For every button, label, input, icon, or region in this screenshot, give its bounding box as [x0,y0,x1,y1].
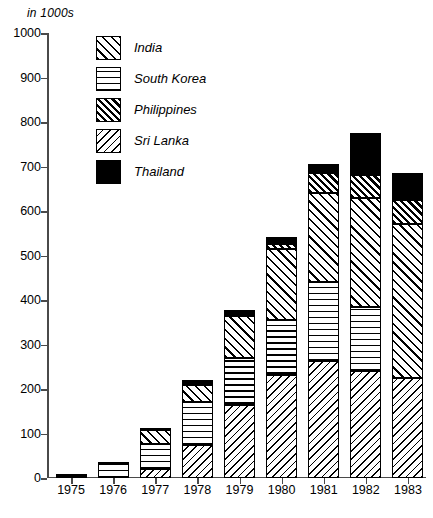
bar-1978 [182,380,213,478]
bar-segment-1979-south-korea [224,358,255,405]
y-tick-mark-800 [41,122,47,124]
y-tick-mark-700 [41,167,47,169]
bar-segment-1981-sri-lanka [308,361,339,478]
bar-1977 [140,430,171,478]
bar-segment-1976-south-korea [98,464,129,478]
legend-swatch-south-korea-icon [96,67,121,91]
bar-segment-1978-south-korea [182,402,213,444]
y-tick-mark-200 [41,389,47,391]
x-tick-label-1977: 1977 [141,483,169,497]
y-tick-mark-500 [41,256,47,258]
y-tick-label-200: 200 [20,382,41,396]
stacked-bar-chart: in 1000s 0100200300400500600700800900100… [0,0,433,518]
x-tick-label-1980: 1980 [268,483,296,497]
bar-segment-1979-sri-lanka [224,405,255,478]
bar-segment-1982-thailand [350,133,381,175]
bar-segment-1982-india [350,198,381,307]
bar-1976 [98,462,129,478]
bar-1981 [308,164,339,478]
bar-segment-1976-thailand [98,462,129,464]
bar-segment-1982-sri-lanka [350,371,381,478]
bar-segment-1979-india [224,316,255,358]
legend-item-south-korea: South Korea [96,65,206,92]
x-tick-label-1981: 1981 [310,483,338,497]
bar-1979 [224,310,255,478]
y-tick-label-600: 600 [20,204,41,218]
legend-swatch-philippines-icon [96,98,121,122]
x-tick-label-1982: 1982 [352,483,380,497]
legend-swatch-india-icon [96,36,121,60]
x-tick-label-1983: 1983 [394,483,422,497]
bar-segment-1980-india [266,249,297,320]
y-tick-label-500: 500 [20,249,41,263]
bar-segment-1977-south-korea [140,444,171,469]
x-tick-label-1975: 1975 [57,483,85,497]
legend-item-india: India [96,34,206,61]
bar-segment-1983-india [392,224,423,378]
legend-label: Philippines [134,102,197,117]
y-tick-mark-300 [41,345,47,347]
y-tick-mark-400 [41,300,47,302]
y-tick-label-100: 100 [20,427,41,441]
bar-segment-1977-thailand [140,428,171,430]
legend-swatch-thailand-icon [96,160,121,184]
bar-segment-1977-sri-lanka [140,469,171,478]
bar-segment-1980-thailand [266,237,297,244]
y-tick-label-700: 700 [20,160,41,174]
bar-1983 [392,173,423,478]
legend-label: India [134,40,162,55]
y-tick-label-0: 0 [34,471,41,485]
bar-segment-1978-sri-lanka [182,445,213,478]
legend-label: Thailand [134,164,184,179]
legend-item-philippines: Philippines [96,96,206,123]
bar-segment-1981-philippines [308,173,339,193]
bar-segment-1981-south-korea [308,282,339,361]
bar-segment-1982-south-korea [350,307,381,372]
bar-segment-1978-thailand [182,380,213,384]
bar-segment-1980-philippines [266,244,297,249]
chart-legend: IndiaSouth KoreaPhilippinesSri LankaThai… [96,34,206,189]
bar-1982 [350,133,381,478]
bar-segment-1983-sri-lanka [392,378,423,478]
bar-segment-1977-india [140,430,171,443]
x-tick-label-1976: 1976 [99,483,127,497]
bar-segment-1981-thailand [308,164,339,173]
y-tick-label-900: 900 [20,71,41,85]
bar-segment-1980-south-korea [266,320,297,375]
axis-unit-label: in 1000s [27,6,74,20]
bar-segment-1978-india [182,385,213,403]
legend-label: Sri Lanka [134,133,189,148]
y-tick-mark-900 [41,78,47,80]
bar-segment-1983-thailand [392,173,423,200]
y-tick-mark-100 [41,434,47,436]
bar-segment-1979-thailand [224,310,255,316]
bar-segment-1981-india [308,193,339,282]
y-tick-label-400: 400 [20,293,41,307]
y-tick-label-800: 800 [20,115,41,129]
bar-segment-1980-sri-lanka [266,375,297,478]
y-tick-mark-600 [41,211,47,213]
y-tick-label-300: 300 [20,338,41,352]
x-tick-label-1978: 1978 [183,483,211,497]
legend-item-sri-lanka: Sri Lanka [96,127,206,154]
y-axis-line [47,33,49,478]
y-tick-mark-1000 [41,33,47,35]
legend-swatch-sri-lanka-icon [96,129,121,153]
y-tick-mark-0 [41,478,47,480]
bar-1980 [266,237,297,478]
y-tick-label-1000: 1000 [13,26,41,40]
bar-segment-1982-philippines [350,175,381,197]
legend-item-thailand: Thailand [96,158,206,185]
x-tick-label-1979: 1979 [226,483,254,497]
bar-segment-1983-philippines [392,200,423,224]
y-axis-tick-labels: 01002003004005006007008009001000 [0,33,41,478]
legend-label: South Korea [134,71,206,86]
